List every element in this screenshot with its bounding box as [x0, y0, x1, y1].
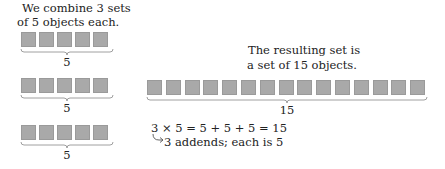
- object-square: [335, 80, 350, 95]
- group-label: 5: [57, 148, 77, 162]
- addends-annotation: 3 addends; each is 5: [164, 135, 283, 150]
- object-square: [21, 78, 36, 93]
- object-square: [166, 80, 181, 95]
- object-square: [354, 80, 369, 95]
- object-square: [147, 80, 162, 95]
- object-square: [75, 78, 90, 93]
- object-square: [241, 80, 256, 95]
- object-square: [373, 80, 388, 95]
- object-square: [93, 125, 108, 140]
- arrow-icon: [151, 134, 165, 144]
- object-square: [222, 80, 237, 95]
- object-square: [93, 78, 108, 93]
- object-square: [185, 80, 200, 95]
- object-square: [57, 32, 72, 47]
- intro-line-2: of 5 objects each.: [17, 15, 119, 30]
- result-object-row: [147, 80, 425, 95]
- object-square: [410, 80, 425, 95]
- object-square: [279, 80, 294, 95]
- object-square: [21, 32, 36, 47]
- object-square: [75, 32, 90, 47]
- result-line-1: The resulting set is: [248, 43, 360, 58]
- object-row: [21, 125, 108, 140]
- object-square: [39, 32, 54, 47]
- object-square: [391, 80, 406, 95]
- object-square: [260, 80, 275, 95]
- object-square: [57, 125, 72, 140]
- object-square: [93, 32, 108, 47]
- result-line-2: a set of 15 objects.: [247, 58, 357, 73]
- intro-line-1: We combine 3 sets: [22, 1, 131, 16]
- object-square: [316, 80, 331, 95]
- group-label: 5: [57, 101, 77, 115]
- group-label: 5: [57, 55, 77, 69]
- object-square: [57, 78, 72, 93]
- object-square: [39, 125, 54, 140]
- result-label: 15: [277, 103, 297, 117]
- equation: 3 × 5 = 5 + 5 + 5 = 15: [151, 121, 287, 136]
- object-row: [21, 32, 108, 47]
- object-square: [203, 80, 218, 95]
- object-row: [21, 78, 108, 93]
- object-square: [297, 80, 312, 95]
- object-square: [39, 78, 54, 93]
- object-square: [75, 125, 90, 140]
- object-square: [21, 125, 36, 140]
